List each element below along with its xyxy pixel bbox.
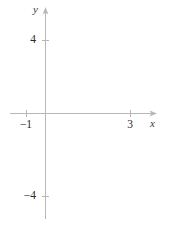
x-tick-label-3: 3	[122, 119, 138, 131]
y-axis-name-label: y	[33, 4, 38, 15]
x-axis-name-label: x	[150, 118, 155, 129]
coordinate-axes-figure: y x 4 −4 −1 3	[0, 0, 170, 225]
x-tick-label-minus-1: −1	[14, 119, 38, 131]
y-tick-label-4: 4	[20, 34, 36, 46]
y-tick-label-minus-4: −4	[16, 190, 36, 202]
